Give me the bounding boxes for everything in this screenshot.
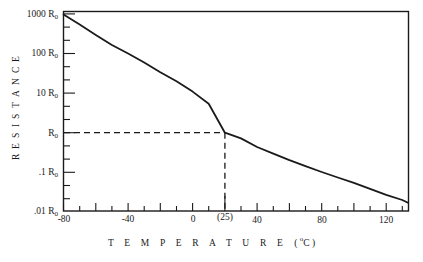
x-axis-title-main: T E M P E R A T U R E [108,238,287,248]
x-tick-label--40: -40 [112,214,144,224]
resistance-curve [64,15,409,203]
y-axis-title: RESISTANCE [8,18,24,198]
x-tick-label-40: 40 [241,215,273,225]
y-axis-ticks [64,14,76,199]
x-axis-ticks [64,203,403,211]
x-tick-label-25-annotation: (25) [209,212,241,222]
x-axis-title: T E M P E R A T U R E ( oC ) [0,236,423,248]
thermistor-resistance-chart: 1000 R0 100 R0 10 R0 R0 .1 R0 .01 R0 -80… [0,0,423,262]
x-tick-label-120: 120 [370,215,402,225]
x-tick-label-0: 0 [177,214,209,224]
plot-frame [64,12,409,212]
x-tick-label--80: -80 [48,214,80,224]
x-tick-label-80: 80 [306,215,338,225]
x-axis-title-units: ( oC ) [294,238,315,248]
